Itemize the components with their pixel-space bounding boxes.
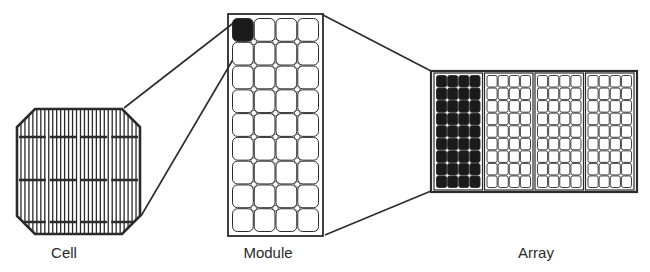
pv-hierarchy-diagram: [0, 0, 650, 272]
module-label: Module: [243, 244, 292, 261]
solar-array: [431, 71, 637, 192]
array-label: Array: [518, 244, 554, 261]
cell-to-module-connectors: [124, 21, 248, 216]
module-to-array-connectors: [323, 15, 431, 235]
solar-module: [228, 14, 323, 236]
cell-outline: [17, 109, 140, 234]
solar-cell: [17, 109, 140, 234]
cell-label: Cell: [51, 244, 77, 261]
